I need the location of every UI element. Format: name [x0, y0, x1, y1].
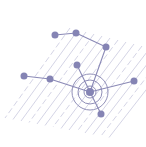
graph-node: [74, 62, 81, 69]
graph-node: [73, 30, 80, 37]
network-graph-icon: [0, 0, 146, 147]
graph-node: [47, 76, 54, 83]
hatch-line: [77, 46, 142, 132]
graph-node: [103, 44, 110, 51]
hatch-line: [109, 54, 146, 138]
graph-edge: [24, 76, 50, 79]
graph-node: [98, 111, 105, 118]
network-illustration: [0, 0, 146, 147]
graph-node: [21, 73, 28, 80]
graph-node: [52, 32, 59, 39]
graph-node: [131, 78, 138, 85]
graph-node: [86, 88, 94, 96]
